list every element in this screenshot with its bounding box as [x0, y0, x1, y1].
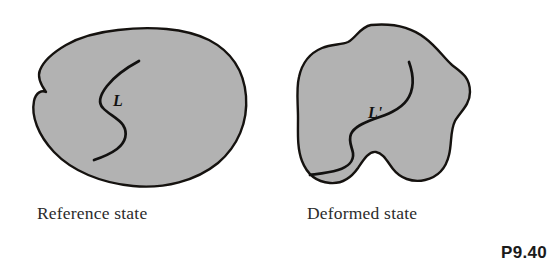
- deformed-body-group: [297, 25, 470, 184]
- deformed-curve-label: L': [368, 104, 382, 122]
- reference-curve-label: L: [113, 92, 123, 110]
- problem-number-label: P9.40: [501, 243, 547, 263]
- deformed-state-caption: Deformed state: [307, 203, 417, 224]
- reference-state-caption: Reference state: [37, 203, 147, 224]
- figure-canvas: [0, 0, 557, 274]
- reference-body-group: [33, 28, 246, 186]
- figure-root: L L' Reference state Deformed state P9.4…: [0, 0, 557, 274]
- deformed-body-outline: [297, 25, 470, 184]
- reference-body-outline: [33, 28, 246, 186]
